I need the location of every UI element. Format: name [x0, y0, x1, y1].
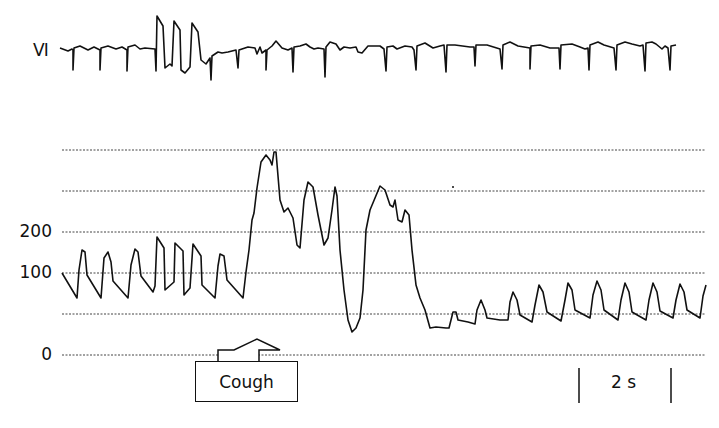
pressure-gridlines [62, 150, 706, 355]
cough-arrow-icon [218, 339, 280, 361]
stray-mark [452, 186, 454, 188]
pressure-trace [62, 152, 706, 332]
y-tick-0: 0 [2, 344, 52, 364]
hemodynamic-figure: VI 200 100 0 Cough 2 s [0, 0, 719, 428]
ecg-lead-label: VI [33, 40, 48, 60]
figure-traces [0, 0, 719, 428]
y-tick-200: 200 [2, 221, 52, 241]
y-tick-100: 100 [2, 262, 52, 282]
cough-annotation: Cough [195, 361, 298, 402]
ecg-trace [60, 16, 676, 80]
time-scale-label: 2 s [611, 372, 636, 392]
